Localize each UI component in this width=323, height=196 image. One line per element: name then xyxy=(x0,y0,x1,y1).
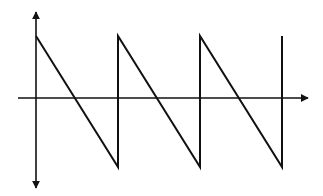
sawtooth-waveform xyxy=(36,36,282,167)
sawtooth-diagram xyxy=(0,0,323,196)
